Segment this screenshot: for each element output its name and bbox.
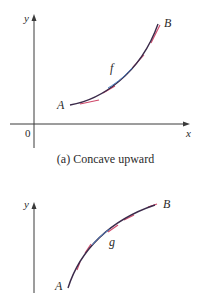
concavity-diagram: y x 0 f A B y g A B <box>0 0 211 293</box>
point-b-label: B <box>163 197 171 211</box>
curve-f <box>70 24 158 105</box>
point-b-label: B <box>164 16 172 30</box>
panel-b-tangents <box>77 204 157 270</box>
origin-label: 0 <box>25 127 31 139</box>
curve-g-label: g <box>109 235 115 249</box>
caption-a: (a) Concave upward <box>0 152 211 167</box>
x-axis-arrow-icon <box>183 122 190 127</box>
y-axis-arrow-icon <box>32 202 37 209</box>
curve-f-label: f <box>110 61 115 75</box>
x-axis-label: x <box>185 127 191 139</box>
panel-a-tangents <box>80 25 160 104</box>
y-axis-arrow-icon <box>32 14 37 21</box>
panel-b-axes <box>32 202 37 293</box>
point-a-label: A <box>56 98 65 112</box>
panel-a-axes <box>10 14 190 148</box>
y-axis-label: y <box>23 198 29 210</box>
point-a-label: A <box>54 279 63 293</box>
tangent-line <box>151 25 160 43</box>
y-axis-label: y <box>23 12 29 24</box>
